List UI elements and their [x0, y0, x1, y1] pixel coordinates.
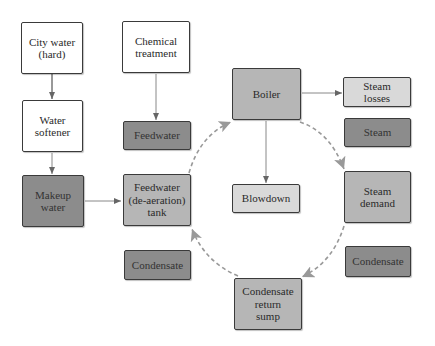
steam-demand-node: Steam demand: [344, 171, 411, 223]
chemical-treatment-node: Chemical treatment: [122, 21, 190, 73]
condensate-legend-left: Condensate: [124, 250, 191, 280]
steam-legend: Steam: [344, 118, 411, 147]
makeup-water-node: Makeup water: [22, 175, 84, 227]
city-water-node: City water (hard): [21, 22, 83, 74]
steam-losses-node: Steam losses: [343, 77, 411, 107]
boiler-node: Boiler: [232, 68, 301, 120]
dashed-arrow-boiler-to-demand: [300, 122, 344, 169]
water-softener-node: Water softener: [22, 100, 83, 152]
blowdown-node: Blowdown: [232, 184, 300, 213]
dashed-arrow-demand-to-sump: [302, 226, 344, 277]
dashed-arrow-sump-to-tank: [192, 229, 238, 276]
feedwater-tank-node: Feedwater (de-aeration) tank: [123, 174, 191, 226]
dashed-arrow-tank-to-boiler: [189, 122, 231, 173]
condensate-return-sump-node: Condensate return sump: [234, 278, 302, 330]
feedwater-legend: Feedwater: [123, 121, 191, 150]
condensate-legend-right: Condensate: [345, 246, 411, 277]
